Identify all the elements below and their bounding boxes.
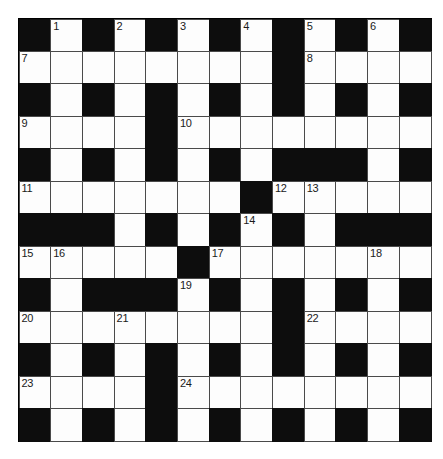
grid-letter-cell[interactable]: 19 <box>177 278 210 311</box>
grid-letter-cell[interactable] <box>177 311 210 344</box>
grid-letter-cell[interactable] <box>304 278 337 311</box>
grid-letter-cell[interactable] <box>240 408 273 441</box>
grid-letter-cell[interactable]: 24 <box>177 376 210 409</box>
grid-letter-cell[interactable] <box>50 278 83 311</box>
grid-letter-cell[interactable] <box>50 376 83 409</box>
grid-letter-cell[interactable] <box>209 181 242 214</box>
grid-letter-cell[interactable] <box>304 116 337 149</box>
grid-letter-cell[interactable]: 3 <box>177 19 210 52</box>
grid-letter-cell[interactable] <box>335 181 368 214</box>
grid-letter-cell[interactable] <box>177 51 210 84</box>
grid-letter-cell[interactable] <box>367 376 400 409</box>
grid-letter-cell[interactable] <box>335 376 368 409</box>
grid-letter-cell[interactable] <box>114 343 147 376</box>
grid-letter-cell[interactable] <box>240 278 273 311</box>
grid-letter-cell[interactable] <box>367 83 400 116</box>
grid-letter-cell[interactable] <box>335 246 368 279</box>
grid-letter-cell[interactable] <box>304 343 337 376</box>
grid-letter-cell[interactable] <box>145 181 178 214</box>
grid-letter-cell[interactable] <box>335 116 368 149</box>
grid-letter-cell[interactable] <box>177 83 210 116</box>
grid-letter-cell[interactable] <box>114 51 147 84</box>
grid-letter-cell[interactable] <box>50 116 83 149</box>
grid-letter-cell[interactable] <box>145 311 178 344</box>
grid-letter-cell[interactable] <box>50 343 83 376</box>
grid-letter-cell[interactable]: 15 <box>19 246 52 279</box>
grid-letter-cell[interactable]: 9 <box>19 116 52 149</box>
grid-letter-cell[interactable] <box>240 311 273 344</box>
grid-letter-cell[interactable] <box>272 116 305 149</box>
grid-letter-cell[interactable] <box>209 376 242 409</box>
grid-letter-cell[interactable] <box>177 408 210 441</box>
grid-letter-cell[interactable] <box>114 148 147 181</box>
grid-letter-cell[interactable] <box>209 116 242 149</box>
grid-letter-cell[interactable] <box>367 311 400 344</box>
grid-letter-cell[interactable]: 7 <box>19 51 52 84</box>
grid-letter-cell[interactable]: 4 <box>240 19 273 52</box>
grid-letter-cell[interactable] <box>304 213 337 246</box>
grid-letter-cell[interactable] <box>240 83 273 116</box>
grid-letter-cell[interactable] <box>272 376 305 409</box>
grid-letter-cell[interactable] <box>335 51 368 84</box>
grid-letter-cell[interactable]: 12 <box>272 181 305 214</box>
grid-letter-cell[interactable] <box>209 311 242 344</box>
grid-letter-cell[interactable] <box>304 376 337 409</box>
grid-letter-cell[interactable] <box>50 51 83 84</box>
grid-letter-cell[interactable]: 23 <box>19 376 52 409</box>
grid-letter-cell[interactable] <box>367 181 400 214</box>
grid-letter-cell[interactable] <box>114 213 147 246</box>
grid-letter-cell[interactable] <box>114 181 147 214</box>
grid-letter-cell[interactable] <box>209 51 242 84</box>
grid-letter-cell[interactable] <box>399 311 432 344</box>
grid-letter-cell[interactable]: 2 <box>114 19 147 52</box>
grid-letter-cell[interactable] <box>367 116 400 149</box>
grid-letter-cell[interactable] <box>240 376 273 409</box>
crossword-grid[interactable]: 123456789101112131415161718192021222324 <box>18 18 432 442</box>
grid-letter-cell[interactable] <box>240 51 273 84</box>
grid-letter-cell[interactable] <box>145 51 178 84</box>
grid-letter-cell[interactable] <box>367 51 400 84</box>
grid-letter-cell[interactable] <box>50 181 83 214</box>
grid-letter-cell[interactable]: 17 <box>209 246 242 279</box>
grid-letter-cell[interactable]: 1 <box>50 19 83 52</box>
grid-letter-cell[interactable]: 13 <box>304 181 337 214</box>
grid-letter-cell[interactable]: 20 <box>19 311 52 344</box>
grid-letter-cell[interactable] <box>82 116 115 149</box>
grid-letter-cell[interactable]: 22 <box>304 311 337 344</box>
grid-letter-cell[interactable]: 11 <box>19 181 52 214</box>
grid-letter-cell[interactable] <box>240 148 273 181</box>
grid-letter-cell[interactable] <box>367 148 400 181</box>
grid-letter-cell[interactable] <box>114 83 147 116</box>
grid-letter-cell[interactable] <box>240 246 273 279</box>
grid-letter-cell[interactable] <box>82 311 115 344</box>
grid-letter-cell[interactable]: 10 <box>177 116 210 149</box>
grid-letter-cell[interactable]: 14 <box>240 213 273 246</box>
grid-letter-cell[interactable] <box>82 246 115 279</box>
grid-letter-cell[interactable] <box>50 311 83 344</box>
grid-letter-cell[interactable] <box>399 376 432 409</box>
grid-letter-cell[interactable] <box>367 343 400 376</box>
grid-letter-cell[interactable] <box>145 246 178 279</box>
grid-letter-cell[interactable] <box>399 246 432 279</box>
grid-letter-cell[interactable] <box>114 408 147 441</box>
grid-letter-cell[interactable] <box>82 51 115 84</box>
grid-letter-cell[interactable] <box>304 246 337 279</box>
grid-letter-cell[interactable] <box>177 148 210 181</box>
grid-letter-cell[interactable] <box>399 51 432 84</box>
grid-letter-cell[interactable] <box>399 181 432 214</box>
grid-letter-cell[interactable]: 6 <box>367 19 400 52</box>
grid-letter-cell[interactable] <box>399 116 432 149</box>
grid-letter-cell[interactable] <box>82 181 115 214</box>
grid-letter-cell[interactable] <box>50 408 83 441</box>
grid-letter-cell[interactable] <box>272 246 305 279</box>
grid-letter-cell[interactable]: 5 <box>304 19 337 52</box>
grid-letter-cell[interactable] <box>240 116 273 149</box>
grid-letter-cell[interactable]: 21 <box>114 311 147 344</box>
grid-letter-cell[interactable] <box>304 408 337 441</box>
grid-letter-cell[interactable]: 18 <box>367 246 400 279</box>
grid-letter-cell[interactable]: 8 <box>304 51 337 84</box>
grid-letter-cell[interactable] <box>114 376 147 409</box>
grid-letter-cell[interactable] <box>177 213 210 246</box>
grid-letter-cell[interactable] <box>177 343 210 376</box>
grid-letter-cell[interactable] <box>50 148 83 181</box>
